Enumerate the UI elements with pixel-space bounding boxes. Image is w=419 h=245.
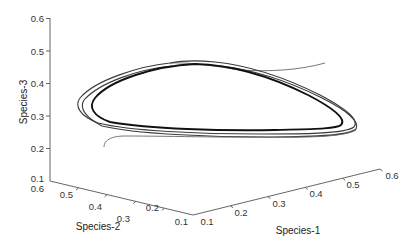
z-tick-label: 0.3	[31, 111, 44, 122]
phase-space-3d-plot: 0.6 0.5 0.4 0.3 0.2 0.1 Species-3 0.6 0.…	[0, 0, 419, 245]
z-tick-label: 0.4	[31, 78, 44, 89]
y-axis: 0.6 0.5 0.4 0.3 0.2 0.1 Species-2	[31, 181, 193, 232]
y-axis-label: Species-2	[76, 221, 121, 232]
x-tick-label: 0.3	[272, 198, 285, 209]
z-tick-label: 0.6	[31, 13, 44, 24]
y-tick-label: 0.2	[146, 202, 159, 213]
x-axis: 0.1 0.2 0.3 0.4 0.5 0.6 Species-1	[193, 169, 399, 236]
y-tick-label: 0.5	[60, 189, 73, 200]
y-tick-label: 0.6	[31, 183, 44, 194]
y-tick-label: 0.4	[89, 201, 102, 212]
z-axis: 0.6 0.5 0.4 0.3 0.2 0.1 Species-3	[18, 13, 50, 184]
trajectory-transient-pass	[82, 66, 356, 137]
trajectory-tail-lower-left	[104, 130, 356, 147]
z-tick-label: 0.5	[31, 46, 44, 57]
x-tick-label: 0.4	[309, 188, 322, 199]
trajectories	[78, 61, 357, 147]
z-tick-label: 0.2	[31, 143, 44, 154]
x-tick-label: 0.2	[234, 207, 247, 218]
x-tick-label: 0.6	[385, 170, 398, 181]
x-tick-label: 0.5	[346, 179, 359, 190]
z-axis-label: Species-3	[18, 79, 29, 124]
x-axis-label: Species-1	[276, 225, 321, 236]
y-tick-label: 0.1	[175, 216, 188, 227]
limit-cycle	[92, 64, 342, 130]
x-tick-label: 0.1	[200, 216, 213, 227]
